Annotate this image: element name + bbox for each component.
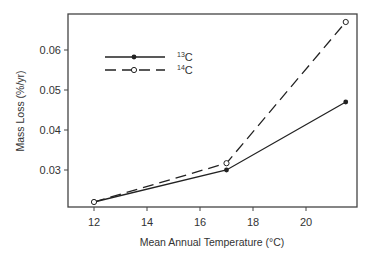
y-tick-label: 0.03 xyxy=(40,164,61,176)
legend-marker-filled-icon xyxy=(132,55,137,60)
data-point-filled-icon xyxy=(224,168,229,173)
y-tick-label: 0.04 xyxy=(40,124,61,136)
x-tick-label: 12 xyxy=(88,216,100,228)
data-point-open-icon xyxy=(91,199,96,204)
y-axis-ticks: 0.030.040.050.06 xyxy=(40,44,68,176)
data-point-filled-icon xyxy=(343,100,348,105)
line-chart: 0.030.040.050.06 1214161820 13C 14C Mean… xyxy=(0,0,376,257)
plot-frame xyxy=(68,14,357,207)
legend-marker-open-icon xyxy=(131,67,136,72)
x-axis-label: Mean Annual Temperature (°C) xyxy=(140,236,285,248)
x-tick-label: 20 xyxy=(300,216,312,228)
x-tick-label: 18 xyxy=(247,216,259,228)
data-point-open-icon xyxy=(224,161,229,166)
x-axis-ticks: 1214161820 xyxy=(88,207,312,228)
data-point-open-icon xyxy=(343,19,348,24)
y-tick-label: 0.06 xyxy=(40,44,61,56)
y-tick-label: 0.05 xyxy=(40,84,61,96)
x-tick-label: 14 xyxy=(141,216,153,228)
y-axis-label: Mass Loss (%/yr) xyxy=(14,70,26,151)
x-tick-label: 16 xyxy=(194,216,206,228)
